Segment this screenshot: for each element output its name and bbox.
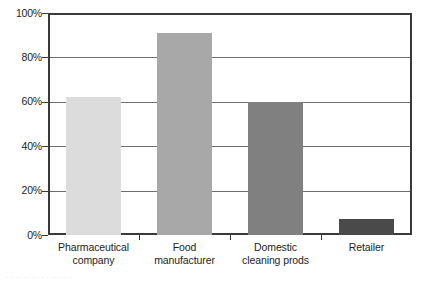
x-axis-category-labels: Pharmaceutical company Food manufacturer… <box>48 241 412 275</box>
x-axis-label-line: company <box>48 254 139 267</box>
y-axis-tick-mark <box>42 235 48 236</box>
y-axis-tick-label: 40% <box>2 141 42 152</box>
y-axis-tick-labels: 100% 80% 60% 40% 20% 0% <box>0 0 42 282</box>
x-axis-label-retailer: Retailer <box>321 241 412 254</box>
caption-remnant: · · ·· ·· ··· · · ··· ·· · <box>6 274 346 280</box>
bar-food-manufacturer <box>157 33 212 235</box>
x-axis-label-line: Food <box>139 241 230 254</box>
bar-chart-figure: 100% 80% 60% 40% 20% 0% Pharmaceutical c… <box>0 0 426 282</box>
x-axis-tick-mark <box>139 235 140 240</box>
x-axis-label-pharmaceutical-company: Pharmaceutical company <box>48 241 139 266</box>
x-axis-tick-mark <box>321 235 322 240</box>
x-axis-label-line: Retailer <box>321 241 412 254</box>
x-axis-label-line: Pharmaceutical <box>48 241 139 254</box>
y-axis-tick-label: 80% <box>2 52 42 63</box>
bar-domestic-cleaning-prods <box>248 102 303 235</box>
x-axis-tick-mark <box>230 235 231 240</box>
x-axis-label-domestic-cleaning-prods: Domestic cleaning prods <box>230 241 321 266</box>
x-axis-label-line: manufacturer <box>139 254 230 267</box>
y-axis-tick-label: 100% <box>2 8 42 19</box>
x-axis-label-line: Domestic <box>230 241 321 254</box>
x-axis-label-food-manufacturer: Food manufacturer <box>139 241 230 266</box>
x-axis-label-line: cleaning prods <box>230 254 321 267</box>
y-axis-tick-label: 20% <box>2 185 42 196</box>
bar-retailer <box>339 219 394 235</box>
y-axis-tick-label: 60% <box>2 96 42 107</box>
bars-layer <box>48 13 412 235</box>
bar-pharmaceutical-company <box>66 97 121 235</box>
y-axis-tick-label: 0% <box>2 230 42 241</box>
